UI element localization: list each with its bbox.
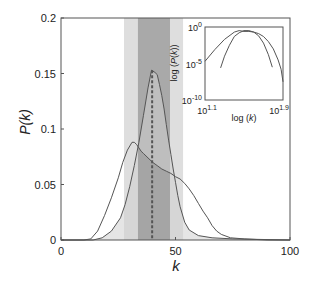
inset-loglog-plot: 10010-510-10101.1101.9 log (k) log (P(k)…	[169, 21, 289, 123]
x-tick-label: 100	[281, 245, 299, 257]
y-tick-label: 0.2	[41, 12, 56, 24]
inset-y-axis-label: log (P(k))	[169, 44, 179, 81]
x-tick-label: 0	[58, 245, 64, 257]
y-tick-label: 0.1	[41, 123, 56, 135]
y-axis-label: P(k)	[17, 109, 33, 135]
inset-tick-label: 100	[188, 21, 202, 33]
x-tick-label: 50	[169, 245, 181, 257]
x-axis-label: k	[172, 257, 181, 274]
degree-distribution-chart: 050100 00.050.10.150.2 k P(k) 10010-510-…	[0, 0, 312, 282]
inset-tick-label: 10-5	[186, 58, 202, 70]
inset-x-axis-label: log (k)	[231, 113, 256, 123]
inset-tick-label: 101.1	[197, 104, 217, 116]
y-tick-label: 0.15	[35, 68, 56, 80]
inset-tick-label: 10-10	[182, 94, 202, 106]
y-tick-label: 0	[50, 234, 56, 246]
inset-tick-label: 101.9	[269, 104, 289, 116]
y-axis-ticks: 00.050.10.150.2	[35, 12, 64, 246]
y-tick-label: 0.05	[35, 179, 56, 191]
